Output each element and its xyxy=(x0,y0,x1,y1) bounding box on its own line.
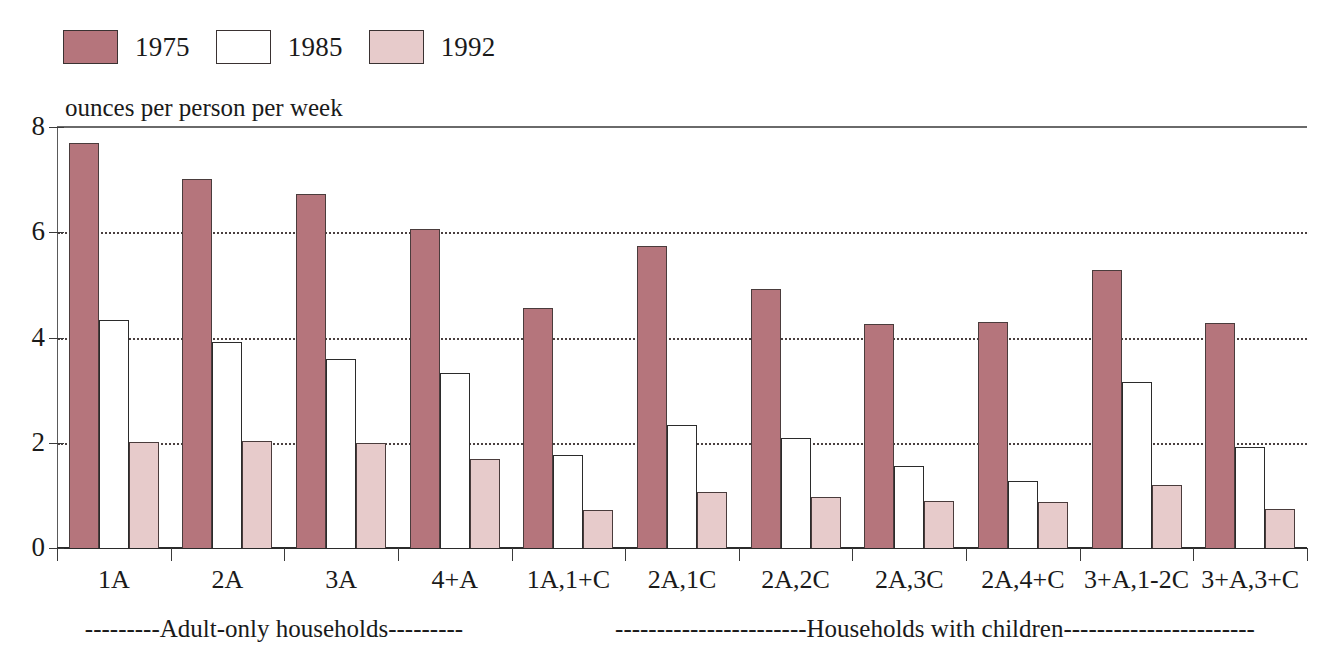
bar-1992-2A,1C xyxy=(697,492,727,548)
bar-1975-2A,3C xyxy=(864,324,894,548)
x-tick-mark xyxy=(398,548,399,561)
bar-1985-1A,1+C xyxy=(553,455,583,548)
bar-1992-2A,4+C xyxy=(1038,502,1068,548)
bar-1975-2A,4+C xyxy=(978,322,1008,548)
bar-1985-1A xyxy=(99,320,129,548)
chart-canvas: 1975 1985 1992 ounces per person per wee… xyxy=(0,0,1339,671)
y-tick-label-4: 4 xyxy=(5,324,45,351)
bar-1985-2A,3C xyxy=(894,466,924,548)
annotation-households-with-children: -----------------------Households with c… xyxy=(570,614,1300,644)
legend-item-1992: 1992 xyxy=(369,30,522,64)
x-tick-mark xyxy=(1193,548,1194,561)
legend-item-1985: 1985 xyxy=(216,30,369,64)
bar-group xyxy=(1193,127,1307,548)
y-tick-label-0: 0 xyxy=(5,534,45,561)
bar-1985-4+A xyxy=(440,373,470,548)
x-tick-mark xyxy=(852,548,853,561)
bar-1992-3A xyxy=(356,443,386,548)
x-axis-label-2A,1C: 2A,1C xyxy=(625,562,739,598)
annotation-adult-only: ---------Adult-only households--------- xyxy=(64,614,484,644)
x-axis-label-2A: 2A xyxy=(171,562,285,598)
bar-1992-2A xyxy=(242,441,272,548)
x-axis-label-2A,3C: 2A,3C xyxy=(852,562,966,598)
x-tick-mark xyxy=(57,548,58,561)
bar-1975-1A,1+C xyxy=(523,308,553,548)
bar-group xyxy=(966,127,1080,548)
y-axis-title: ounces per person per week xyxy=(65,94,343,122)
bar-1985-3+A,1-2C xyxy=(1122,382,1152,548)
y-tick-label-6: 6 xyxy=(5,218,45,245)
legend-item-1975: 1975 xyxy=(63,30,216,64)
bar-group xyxy=(284,127,398,548)
bar-group xyxy=(512,127,626,548)
bar-group xyxy=(1080,127,1194,548)
x-axis-label-1A: 1A xyxy=(57,562,171,598)
x-axis-labels: 1A2A3A4+A1A,1+C2A,1C2A,2C2A,3C2A,4+C3+A,… xyxy=(57,562,1307,598)
x-axis-label-1A,1+C: 1A,1+C xyxy=(512,562,626,598)
bars-layer xyxy=(57,127,1307,548)
x-tick-mark xyxy=(171,548,172,561)
bar-1985-2A,1C xyxy=(667,425,697,548)
x-axis-label-3+A,3+C: 3+A,3+C xyxy=(1193,562,1307,598)
legend-label-1985: 1985 xyxy=(288,30,343,64)
x-tick-mark xyxy=(1307,548,1308,561)
x-tick-mark xyxy=(625,548,626,561)
bar-group xyxy=(398,127,512,548)
bar-1992-2A,3C xyxy=(924,501,954,548)
bar-1985-3A xyxy=(326,359,356,548)
x-tick-mark xyxy=(966,548,967,561)
x-tick-mark xyxy=(739,548,740,561)
bar-group xyxy=(852,127,966,548)
bar-group xyxy=(739,127,853,548)
x-axis-label-4+A: 4+A xyxy=(398,562,512,598)
bar-group xyxy=(171,127,285,548)
bar-1975-3+A,1-2C xyxy=(1092,270,1122,548)
x-axis-label-3+A,1-2C: 3+A,1-2C xyxy=(1080,562,1194,598)
bar-1975-4+A xyxy=(410,229,440,548)
x-axis-label-2A,2C: 2A,2C xyxy=(739,562,853,598)
y-tick-label-2: 2 xyxy=(5,429,45,456)
legend-label-1992: 1992 xyxy=(441,30,496,64)
bar-1992-3+A,3+C xyxy=(1265,509,1295,548)
bar-group xyxy=(57,127,171,548)
legend-swatch-1975 xyxy=(63,30,118,64)
bar-1975-2A xyxy=(182,179,212,548)
y-tick-label-8: 8 xyxy=(5,113,45,140)
bar-1985-3+A,3+C xyxy=(1235,447,1265,548)
legend-swatch-1985 xyxy=(216,30,271,64)
bar-1992-1A xyxy=(129,442,159,548)
x-axis-label-3A: 3A xyxy=(284,562,398,598)
bar-1992-1A,1+C xyxy=(583,510,613,548)
bar-1992-3+A,1-2C xyxy=(1152,485,1182,548)
x-axis-label-2A,4+C: 2A,4+C xyxy=(966,562,1080,598)
bar-1975-3+A,3+C xyxy=(1205,323,1235,548)
bar-group xyxy=(625,127,739,548)
bar-1985-2A xyxy=(212,342,242,548)
bar-1992-4+A xyxy=(470,459,500,548)
x-tick-mark xyxy=(1080,548,1081,561)
bar-1985-2A,2C xyxy=(781,438,811,549)
bar-1975-2A,2C xyxy=(751,289,781,548)
legend-label-1975: 1975 xyxy=(135,30,190,64)
bar-1975-1A xyxy=(69,143,99,548)
chart-legend: 1975 1985 1992 xyxy=(63,30,521,64)
bar-1992-2A,2C xyxy=(811,497,841,548)
x-tick-mark xyxy=(284,548,285,561)
bar-1975-2A,1C xyxy=(637,246,667,548)
bar-1985-2A,4+C xyxy=(1008,481,1038,548)
x-tick-mark xyxy=(512,548,513,561)
legend-swatch-1992 xyxy=(369,30,424,64)
bar-1975-3A xyxy=(296,194,326,548)
